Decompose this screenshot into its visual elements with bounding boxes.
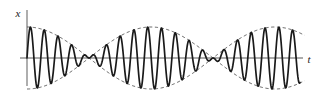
x-axis-label: x — [15, 7, 21, 19]
t-axis-label: t — [307, 53, 311, 65]
beats-diagram: x t — [0, 0, 319, 106]
beats-figure: x t — [0, 0, 319, 106]
